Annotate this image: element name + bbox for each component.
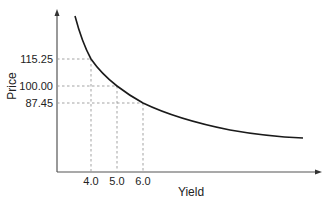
price-yield-curve [75, 16, 303, 138]
guide-lines [57, 59, 143, 172]
x-tick-label: 4.0 [83, 175, 98, 187]
y-axis-arrow-icon [55, 9, 60, 16]
y-tick-label: 100.00 [19, 80, 53, 92]
x-tick-label: 5.0 [109, 175, 124, 187]
y-tick-label: 87.45 [25, 97, 53, 109]
y-axis-title: Price [5, 72, 19, 100]
y-tick-label: 115.25 [20, 53, 53, 65]
x-tick-label: 6.0 [135, 175, 150, 187]
x-axis-arrow-icon [315, 170, 322, 175]
price-yield-chart: 115.25 100.00 87.45 4.0 5.0 6.0 Price Yi… [0, 0, 329, 204]
x-axis-title: Yield [178, 185, 204, 199]
